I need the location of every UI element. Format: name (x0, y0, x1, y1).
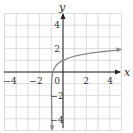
x-axis-arrow-icon (115, 70, 121, 75)
graph: x y −4 −2 0 2 4 4 2 −2 −4 (0, 0, 133, 133)
axes (4, 13, 121, 128)
x-axis-label: x (124, 66, 131, 79)
x-tick-label: 0 (54, 76, 60, 86)
x-tick-label: 2 (83, 76, 89, 86)
x-tick-label: −4 (3, 76, 17, 86)
y-tick-label: 2 (54, 44, 60, 54)
y-axis-label: y (58, 1, 66, 14)
x-tick-label: 4 (107, 76, 113, 86)
y-tick-label: −2 (50, 91, 63, 101)
y-tick-label: −4 (50, 115, 64, 125)
x-tick-label: −2 (29, 76, 42, 86)
y-tick-label: 4 (54, 20, 60, 30)
